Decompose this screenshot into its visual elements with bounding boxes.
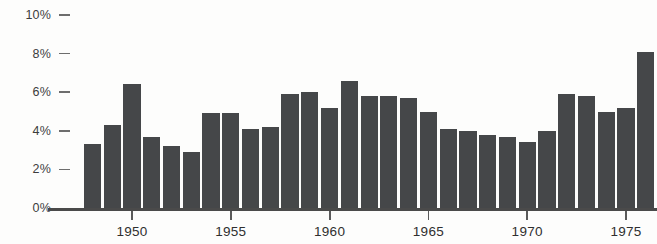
bar	[598, 112, 615, 209]
bar	[123, 84, 140, 208]
bar	[321, 108, 338, 208]
y-axis-tick: 8%	[0, 47, 80, 61]
bar-chart: 10%8%6%4%2%0% 195019551960196519701975	[0, 0, 657, 244]
x-axis-tick-label: 1975	[610, 224, 641, 239]
bar	[499, 137, 516, 208]
x-axis-tick-label: 1960	[314, 224, 345, 239]
y-axis-tick: 4%	[0, 124, 80, 138]
bar	[440, 129, 457, 208]
bar	[578, 96, 595, 208]
x-axis-tick-label: 1965	[413, 224, 444, 239]
bar	[400, 98, 417, 208]
bar	[84, 144, 101, 208]
x-axis-tick-mark	[625, 211, 627, 220]
bar	[637, 52, 654, 208]
bar	[479, 135, 496, 208]
bar	[459, 131, 476, 208]
bar	[538, 131, 555, 208]
y-axis-tick: 6%	[0, 85, 80, 99]
y-axis-tick: 10%	[0, 8, 80, 22]
plot-area	[80, 0, 657, 210]
x-axis-tick-mark	[526, 211, 528, 220]
bar	[183, 152, 200, 208]
y-axis-tick-label: 6%	[33, 85, 51, 99]
bar	[380, 96, 397, 208]
bar	[222, 113, 239, 208]
x-axis-tick-mark	[329, 211, 331, 220]
y-axis-tick-label: 4%	[33, 124, 51, 138]
x-axis-tick-mark	[428, 211, 430, 220]
y-axis-tick-mark	[59, 91, 70, 93]
bar	[143, 137, 160, 208]
bar	[281, 94, 298, 208]
y-axis-tick: 2%	[0, 162, 80, 176]
y-axis-tick-mark	[59, 169, 70, 171]
x-axis-tick-mark	[131, 211, 133, 220]
x-axis-tick-mark	[230, 211, 232, 220]
bar	[202, 113, 219, 208]
bar	[104, 125, 121, 208]
x-axis-tick-label: 1970	[512, 224, 543, 239]
bar	[262, 127, 279, 208]
y-axis-tick-label: 10%	[25, 8, 51, 22]
x-axis-tick-label: 1955	[215, 224, 246, 239]
y-axis-tick-mark	[59, 130, 70, 132]
bar	[301, 92, 318, 208]
bar	[420, 112, 437, 209]
y-axis-tick-mark	[59, 14, 70, 16]
bar	[617, 108, 634, 208]
y-axis-tick-mark	[59, 53, 70, 55]
bar	[341, 81, 358, 208]
y-axis-tick-label: 8%	[33, 47, 51, 61]
x-axis-tick-label: 1950	[116, 224, 147, 239]
bar	[361, 96, 378, 208]
bar-series	[80, 0, 657, 210]
bar	[558, 94, 575, 208]
y-axis-tick-label: 2%	[33, 162, 51, 176]
x-axis-baseline	[48, 208, 657, 211]
bar	[163, 146, 180, 208]
bar	[242, 129, 259, 208]
bar	[519, 142, 536, 208]
